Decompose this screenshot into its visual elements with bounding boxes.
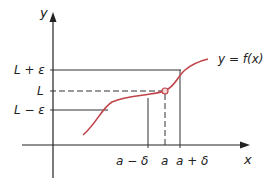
l-minus-eps-label: L − ε: [14, 104, 45, 116]
a-plus-delta-label: a + δ: [176, 155, 208, 167]
a-minus-delta-label: a − δ: [116, 155, 148, 167]
a-label: a: [161, 155, 168, 167]
y-axis-arrow-icon: [50, 12, 57, 22]
x-axis-arrow-icon: [240, 142, 250, 149]
curve-label: y = f(x): [218, 53, 263, 65]
l-plus-eps-label: L + ε: [14, 64, 45, 76]
y-axis-label: y: [40, 6, 48, 19]
x-axis-label: x: [244, 153, 252, 166]
l-label: L: [37, 85, 44, 97]
limit-point: [162, 88, 168, 94]
